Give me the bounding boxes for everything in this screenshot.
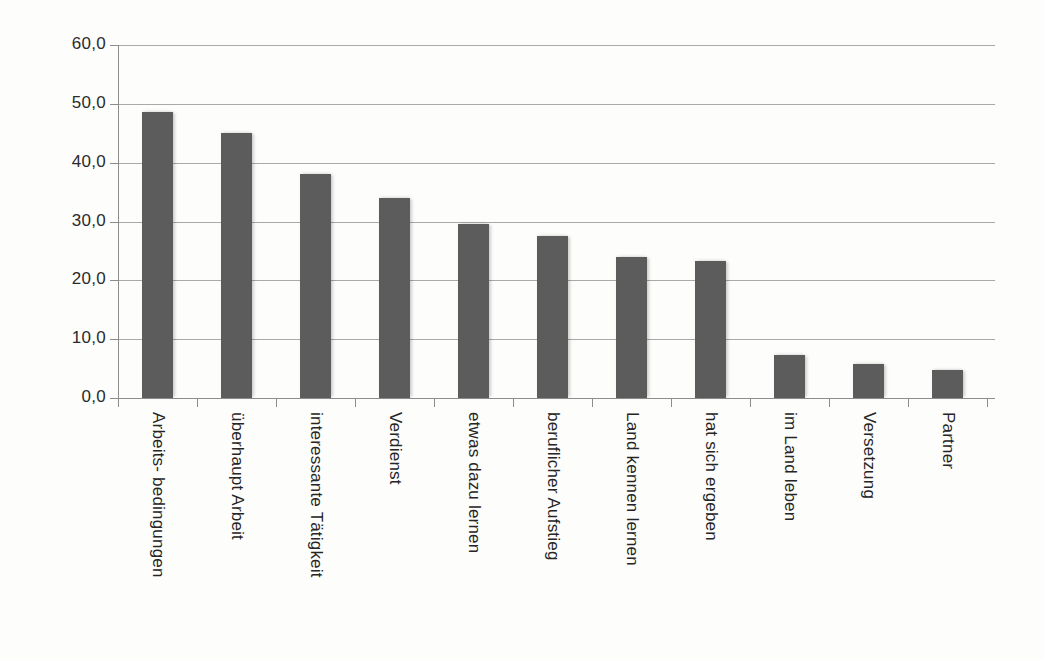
bar[interactable] [458,224,489,398]
bar-slot [197,45,276,398]
x-axis-tick [671,398,672,407]
bar[interactable] [142,112,173,398]
x-axis-tick [592,398,593,407]
bar[interactable] [616,257,647,398]
y-axis-tick-label: 40,0 [44,152,106,172]
bar-slot [355,45,434,398]
x-axis-tick [276,398,277,407]
y-axis-tick [110,339,119,340]
bar[interactable] [537,236,568,398]
y-axis-tick [110,45,119,46]
x-axis-category-label: etwas dazu lernen [464,412,484,652]
x-axis-tick [513,398,514,407]
y-axis-tick-label: 0,0 [44,387,106,407]
x-axis-category-label: interessante Tätigkeit [306,412,326,652]
y-axis-tick-label: 60,0 [44,34,106,54]
x-axis-tick [750,398,751,407]
x-axis-category-label: im Land leben [780,412,800,652]
bar[interactable] [695,261,726,398]
x-axis-tick [434,398,435,407]
bar-slot [908,45,987,398]
bar[interactable] [932,370,963,398]
y-axis-tick-label: 50,0 [44,93,106,113]
bar[interactable] [221,133,252,398]
y-axis-tick-label: 20,0 [44,269,106,289]
y-axis-tick [110,104,119,105]
x-axis-tick [829,398,830,407]
y-axis-tick [110,163,119,164]
x-axis-category-label: Land kennen lernen [622,412,642,652]
y-axis-tick [110,280,119,281]
bar[interactable] [379,198,410,398]
bar[interactable] [300,174,331,398]
x-axis-tick [118,398,119,407]
x-axis-tick [355,398,356,407]
x-axis-category-label: Versetzung [859,412,879,652]
bar-slot [671,45,750,398]
bar-slot [434,45,513,398]
x-axis-category-label: Verdienst [385,412,405,652]
bar-slot [276,45,355,398]
y-axis-tick [110,222,119,223]
plot-area [118,45,995,398]
chart-page: 0,010,020,030,040,050,060,0 Arbeits- bed… [0,0,1045,660]
x-axis-category-label: Arbeits- bedingungen [148,412,168,652]
x-axis-baseline [118,398,995,399]
x-axis-category-label: hat sich ergeben [701,412,721,652]
y-axis-labels: 0,010,020,030,040,050,060,0 [36,0,106,660]
x-axis-category-label: überhaupt Arbeit [227,412,247,652]
bar-slot [118,45,197,398]
x-axis-category-label: Partner [938,412,958,652]
bar[interactable] [853,364,884,398]
x-axis-tick [197,398,198,407]
bar-slot [750,45,829,398]
y-axis-tick-label: 30,0 [44,211,106,231]
bar-slot [829,45,908,398]
bar[interactable] [774,355,805,398]
x-axis-tick [987,398,988,407]
bar-slot [592,45,671,398]
y-axis-tick-label: 10,0 [44,328,106,348]
x-axis-category-label: beruflicher Aufstieg [543,412,563,652]
bar-slot [513,45,592,398]
x-axis-tick [908,398,909,407]
